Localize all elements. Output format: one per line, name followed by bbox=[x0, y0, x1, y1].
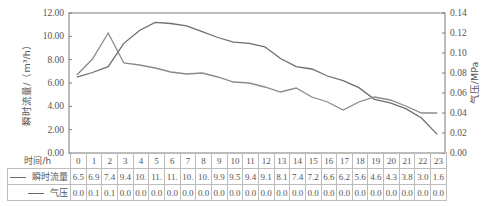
right-axis-title: 气压/MPa bbox=[469, 62, 480, 105]
table-flow-cell: 6.2 bbox=[337, 169, 353, 185]
table-hour-cell: 21 bbox=[399, 153, 415, 169]
left-axis-ticks: 0.002.004.006.008.0010.0012.00 bbox=[43, 8, 72, 158]
right-tick-label: 0.10 bbox=[450, 48, 467, 58]
table-hour-cell: 0 bbox=[71, 153, 87, 169]
right-tick-label: 0.02 bbox=[450, 128, 467, 138]
right-tick-label: 0.12 bbox=[450, 28, 467, 38]
table-flow-cell: 11. bbox=[149, 169, 165, 185]
table-hour-cell: 14 bbox=[290, 153, 306, 169]
table-flow-cell: 4.6 bbox=[368, 169, 384, 185]
table-flow-cell: 10. bbox=[180, 169, 196, 185]
right-tick-label: 0.14 bbox=[450, 8, 467, 18]
table-pressure-cell: 0.0 bbox=[431, 185, 447, 201]
table-hour-cell: 22 bbox=[415, 153, 431, 169]
table-pressure-cell: 0.0 bbox=[415, 185, 431, 201]
table-pressure-cell: 0.0 bbox=[211, 185, 227, 201]
table-pressure-cell: 0.0 bbox=[352, 185, 368, 201]
table-hour-cell: 11 bbox=[243, 153, 259, 169]
table-hour-cell: 13 bbox=[274, 153, 290, 169]
left-tick-label: 2.00 bbox=[47, 125, 64, 135]
table-flow-cell: 11. bbox=[164, 169, 180, 185]
time-axis-label: 时间/h bbox=[8, 153, 71, 169]
table-flow-cell: 8.1 bbox=[274, 169, 290, 185]
left-tick-label: 10.00 bbox=[43, 31, 65, 41]
table-flow-cell: 7.4 bbox=[102, 169, 118, 185]
table-header-row: 时间/h 01234567891011121314151617181920212… bbox=[8, 153, 447, 169]
table-pressure-cell: 0.1 bbox=[86, 185, 102, 201]
table-flow-cell: 9.5 bbox=[227, 169, 243, 185]
table-hour-cell: 6 bbox=[164, 153, 180, 169]
table-hour-cell: 17 bbox=[337, 153, 353, 169]
legend-line-icon bbox=[10, 177, 26, 178]
right-tick-label: 0.04 bbox=[450, 108, 467, 118]
table-hour-cell: 1 bbox=[86, 153, 102, 169]
data-table: 时间/h 01234567891011121314151617181920212… bbox=[7, 152, 447, 201]
table-flow-cell: 9.9 bbox=[211, 169, 227, 185]
table-pressure-cell: 0.0 bbox=[117, 185, 133, 201]
table-flow-cell: 6.6 bbox=[321, 169, 337, 185]
legend-flow: 瞬时流量 bbox=[8, 169, 71, 185]
table-hour-cell: 4 bbox=[133, 153, 149, 169]
table-pressure-cell: 0.0 bbox=[337, 185, 353, 201]
plot-frame bbox=[69, 13, 445, 153]
legend-pressure: 气压 bbox=[8, 185, 71, 201]
table-flow-cell: 6.5 bbox=[71, 169, 87, 185]
table-hour-cell: 15 bbox=[305, 153, 321, 169]
table-flow-cell: 9.4 bbox=[117, 169, 133, 185]
left-tick-label: 12.00 bbox=[43, 8, 65, 18]
table-row-pressure: 气压 0.00.10.10.00.00.00.00.00.00.00.00.00… bbox=[8, 185, 447, 201]
table-pressure-cell: 0.0 bbox=[399, 185, 415, 201]
table-pressure-cell: 0.0 bbox=[321, 185, 337, 201]
table-pressure-cell: 0.0 bbox=[180, 185, 196, 201]
right-tick-label: 0.08 bbox=[450, 68, 467, 78]
table-hour-cell: 3 bbox=[117, 153, 133, 169]
table-hour-cell: 12 bbox=[258, 153, 274, 169]
legend-pressure-label: 气压 bbox=[50, 188, 68, 198]
flow-series-line bbox=[77, 22, 437, 134]
table-pressure-cell: 0.0 bbox=[243, 185, 259, 201]
table-hour-cell: 23 bbox=[431, 153, 447, 169]
right-tick-label: 0.06 bbox=[450, 88, 467, 98]
table-flow-cell: 5.6 bbox=[352, 169, 368, 185]
legend-flow-label: 瞬时流量 bbox=[32, 172, 68, 182]
table-hour-cell: 18 bbox=[352, 153, 368, 169]
table-flow-cell: 3.8 bbox=[399, 169, 415, 185]
table-pressure-cell: 0.0 bbox=[133, 185, 149, 201]
table-flow-cell: 9.4 bbox=[243, 169, 259, 185]
table-pressure-cell: 0.0 bbox=[274, 185, 290, 201]
table-hour-cell: 20 bbox=[384, 153, 400, 169]
table-pressure-cell: 0.0 bbox=[196, 185, 212, 201]
table-flow-cell: 10. bbox=[196, 169, 212, 185]
table-flow-cell: 9.1 bbox=[258, 169, 274, 185]
table-row-flow: 瞬时流量 6.56.97.49.410.11.11.10.10.9.99.59.… bbox=[8, 169, 447, 185]
table-hour-cell: 7 bbox=[180, 153, 196, 169]
table-hour-cell: 9 bbox=[211, 153, 227, 169]
right-axis-ticks: 0.000.020.040.060.080.100.120.14 bbox=[442, 8, 467, 158]
right-tick-label: 0.00 bbox=[450, 148, 467, 158]
table-hour-cell: 8 bbox=[196, 153, 212, 169]
left-tick-label: 4.00 bbox=[47, 101, 64, 111]
table-hour-cell: 16 bbox=[321, 153, 337, 169]
table-pressure-cell: 0.0 bbox=[164, 185, 180, 201]
left-tick-label: 6.00 bbox=[47, 78, 64, 88]
table-pressure-cell: 0.0 bbox=[305, 185, 321, 201]
table-flow-cell: 4.3 bbox=[384, 169, 400, 185]
table-flow-cell: 7.4 bbox=[290, 169, 306, 185]
table-pressure-cell: 0.1 bbox=[102, 185, 118, 201]
table-pressure-cell: 0.0 bbox=[258, 185, 274, 201]
table-flow-cell: 3.0 bbox=[415, 169, 431, 185]
table-pressure-cell: 0.0 bbox=[149, 185, 165, 201]
table-hour-cell: 5 bbox=[149, 153, 165, 169]
left-axis-title: 瞬时流量/（m³/h） bbox=[21, 40, 32, 126]
table-hour-cell: 10 bbox=[227, 153, 243, 169]
table-pressure-cell: 0.0 bbox=[384, 185, 400, 201]
table-flow-cell: 1.6 bbox=[431, 169, 447, 185]
table-flow-cell: 10. bbox=[133, 169, 149, 185]
table-pressure-cell: 0.0 bbox=[71, 185, 87, 201]
table-hour-cell: 2 bbox=[102, 153, 118, 169]
table-pressure-cell: 0.0 bbox=[368, 185, 384, 201]
legend-line-icon bbox=[28, 193, 44, 194]
table-flow-cell: 7.2 bbox=[305, 169, 321, 185]
table-pressure-cell: 0.0 bbox=[290, 185, 306, 201]
left-tick-label: 8.00 bbox=[47, 55, 64, 65]
